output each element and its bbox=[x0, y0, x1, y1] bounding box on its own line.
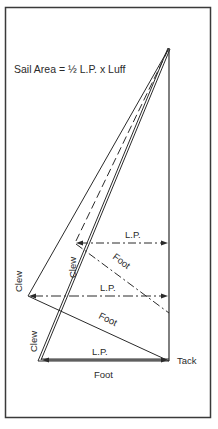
tack-label: Tack bbox=[177, 355, 197, 366]
sail-dashed bbox=[75, 50, 169, 313]
sail-single-lp-arrowhead-right bbox=[161, 294, 168, 299]
sail-double-lp-label: L.P. bbox=[92, 346, 108, 357]
sail-dashed-clew-label: Clew bbox=[67, 257, 78, 278]
sail-area-diagram: Sail Area = ½ L.P. x Luff L.P. Clew Foot… bbox=[0, 0, 218, 429]
sail-dashed-foot-label: Foot bbox=[111, 251, 133, 271]
sail-dashed-lp-arrowhead-right bbox=[161, 241, 168, 246]
sail-dashed-lp-label: L.P. bbox=[125, 229, 141, 240]
sail-dashed-leech bbox=[75, 50, 168, 243]
sail-single-clew-label: Clew bbox=[13, 271, 24, 292]
sail-single bbox=[28, 48, 169, 361]
sail-single-leech bbox=[28, 48, 169, 296]
sail-single-lp-label: L.P. bbox=[100, 282, 116, 293]
sail-double-lp-arrowhead-left bbox=[42, 358, 49, 363]
formula-text: Sail Area = ½ L.P. x Luff bbox=[14, 63, 125, 75]
sail-double-clew-label: Clew bbox=[28, 331, 39, 352]
sail-double-foot-label: Foot bbox=[94, 369, 113, 380]
sail-single-foot-label: Foot bbox=[97, 310, 119, 328]
